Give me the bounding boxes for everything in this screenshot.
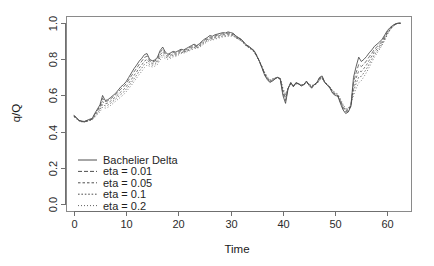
q-over-Q-line-chart: 0102030405060 0.00.20.40.60.81.0 Bacheli… (0, 0, 434, 266)
legend-label-2: eta = 0.05 (103, 177, 152, 189)
legend-label-1: eta = 0.01 (103, 165, 152, 177)
y-tick-label-0.6: 0.6 (47, 88, 59, 103)
y-tick-label-0.8: 0.8 (47, 52, 59, 67)
y-tick-label-1.0: 1.0 (47, 16, 59, 31)
y-tick-label-0.4: 0.4 (47, 125, 59, 140)
legend-label-3: eta = 0.1 (103, 188, 146, 200)
x-tick-label-40: 40 (277, 218, 289, 230)
chart-figure: 0102030405060 0.00.20.40.60.81.0 Bacheli… (0, 0, 434, 266)
x-tick-label-60: 60 (381, 218, 393, 230)
y-tick-label-0.0: 0.0 (47, 197, 59, 212)
x-tick-label-30: 30 (225, 218, 237, 230)
y-tick-label-0.2: 0.2 (47, 161, 59, 176)
x-tick-label-10: 10 (120, 218, 132, 230)
x-tick-label-0: 0 (71, 218, 77, 230)
y-axis-title: q/Q (10, 104, 22, 123)
x-axis-title: Time (224, 243, 249, 255)
legend-label-4: eta = 0.2 (103, 200, 146, 212)
x-tick-label-20: 20 (172, 218, 184, 230)
legend-label-0: Bachelier Delta (103, 154, 178, 166)
x-tick-label-50: 50 (329, 218, 341, 230)
